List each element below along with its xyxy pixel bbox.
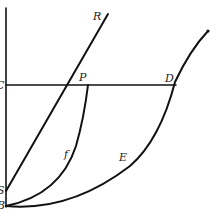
label-f: f [63, 148, 70, 161]
label-p: P [78, 71, 87, 84]
label-d: D [164, 72, 174, 85]
label-b: B [0, 199, 5, 212]
curve-end-dot [206, 29, 209, 32]
label-s: S [0, 184, 5, 197]
label-c: C [0, 79, 5, 92]
curve-bed [6, 31, 208, 207]
label-e: E [118, 151, 127, 164]
diagram-canvas: R P D C S B E f [0, 0, 218, 213]
label-r: R [92, 10, 101, 23]
curve-bfp [6, 85, 88, 206]
line-spr [6, 14, 108, 191]
